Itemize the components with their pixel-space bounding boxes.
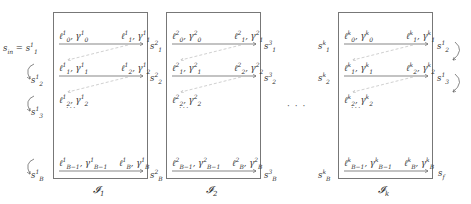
blockk-arrows bbox=[344, 44, 428, 171]
block2-arrows bbox=[172, 44, 256, 171]
arrows-overlay bbox=[0, 0, 471, 204]
right-curved-arrows bbox=[453, 42, 460, 92]
block1-arrows bbox=[59, 44, 143, 171]
left-curved-arrows bbox=[28, 64, 34, 174]
